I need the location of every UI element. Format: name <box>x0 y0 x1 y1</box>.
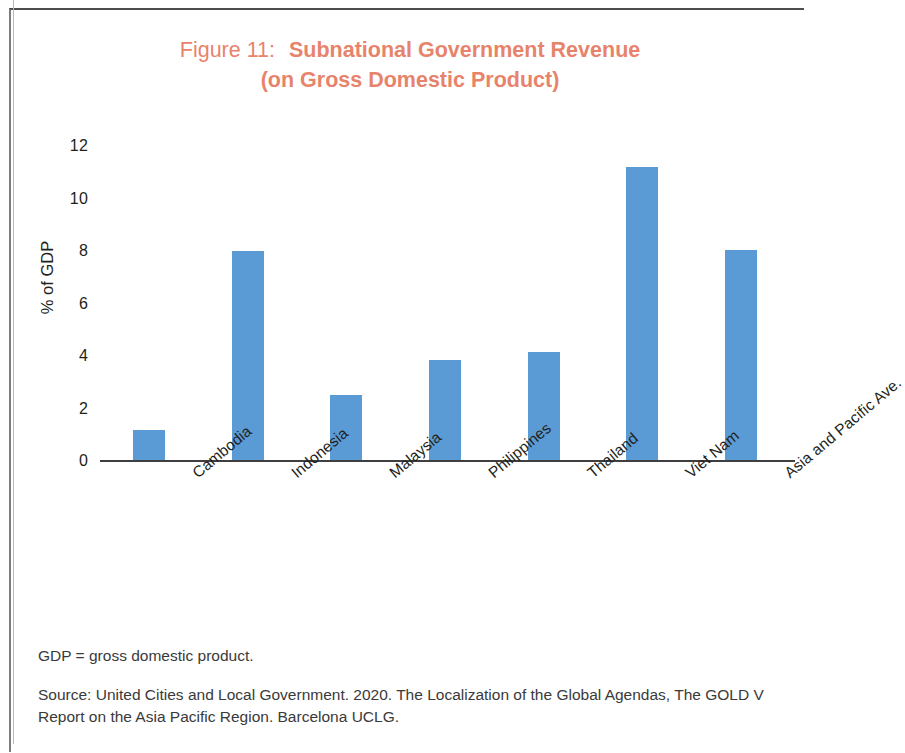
bar-cambodia <box>133 430 165 462</box>
x-axis-tick-labels: CambodiaIndonesiaMalaysiaPhilippinesThai… <box>100 462 790 632</box>
y-axis-tick-8: 8 <box>79 242 88 260</box>
y-axis-tick-12: 12 <box>70 137 88 155</box>
y-axis-tick-labels: 121086420 <box>56 146 88 461</box>
bar-viet-nam <box>626 167 658 461</box>
y-axis-tick-2: 2 <box>79 400 88 418</box>
y-axis-tick-4: 4 <box>79 347 88 365</box>
abbreviation-note: GDP = gross domestic product. <box>38 645 778 667</box>
y-axis-tick-6: 6 <box>79 295 88 313</box>
y-axis-title: % of GDP <box>38 218 57 338</box>
y-axis-tick-10: 10 <box>70 190 88 208</box>
figure-notes: GDP = gross domestic product. Source: Un… <box>38 645 778 728</box>
plot-area <box>100 146 790 461</box>
source-note: Source: United Cities and Local Governme… <box>38 684 778 728</box>
x-axis-tick-asia-and-pacific-ave: Asia and Pacific Ave. <box>781 374 905 482</box>
y-axis-tick-0: 0 <box>79 452 88 470</box>
